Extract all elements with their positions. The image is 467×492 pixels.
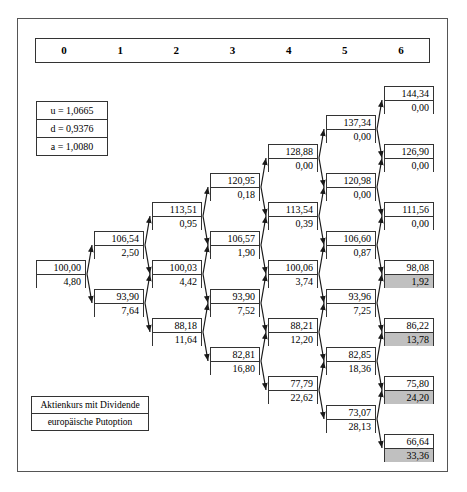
tree-node: 113,510,95 xyxy=(152,202,202,230)
period-header-bar: 0123456 xyxy=(35,38,430,63)
node-stock-price: 111,56 xyxy=(385,203,433,217)
period-label-2: 2 xyxy=(148,39,204,62)
tree-node: 120,950,18 xyxy=(210,173,260,201)
node-option-value: 0,00 xyxy=(269,159,317,172)
tree-node: 126,900,00 xyxy=(384,144,434,172)
parameter-row: u = 1,0665 xyxy=(37,102,107,120)
node-option-value: 0,00 xyxy=(327,188,375,201)
node-stock-price: 88,21 xyxy=(269,319,317,333)
node-option-value: 0,00 xyxy=(385,217,433,230)
node-stock-price: 137,34 xyxy=(327,116,375,130)
tree-node: 100,063,74 xyxy=(268,260,318,288)
node-option-value: 0,18 xyxy=(211,188,259,201)
node-option-value: 11,64 xyxy=(153,333,201,346)
node-stock-price: 93,96 xyxy=(327,290,375,304)
node-stock-price: 82,85 xyxy=(327,348,375,362)
node-option-value: 1,90 xyxy=(211,246,259,259)
tree-node: 137,340,00 xyxy=(326,115,376,143)
node-stock-price: 120,95 xyxy=(211,174,259,188)
parameter-row: a = 1,0080 xyxy=(37,138,107,155)
tree-node: 113,540,39 xyxy=(268,202,318,230)
node-stock-price: 126,90 xyxy=(385,145,433,159)
node-stock-price: 100,03 xyxy=(153,261,201,275)
tree-node: 128,880,00 xyxy=(268,144,318,172)
node-option-value: 2,50 xyxy=(95,246,143,259)
tree-node: 66,6433,36 xyxy=(384,434,434,462)
tree-node: 77,7922,62 xyxy=(268,376,318,404)
tree-node: 88,2112,20 xyxy=(268,318,318,346)
period-label-1: 1 xyxy=(92,39,148,62)
node-option-value: 33,36 xyxy=(385,449,433,462)
node-stock-price: 113,51 xyxy=(153,203,201,217)
node-option-value: 0,00 xyxy=(385,159,433,172)
tree-node: 93,907,64 xyxy=(94,289,144,317)
node-option-value: 0,00 xyxy=(385,101,433,114)
tree-node: 88,1811,64 xyxy=(152,318,202,346)
tree-node: 106,600,87 xyxy=(326,231,376,259)
node-option-value: 0,00 xyxy=(327,130,375,143)
node-option-value: 3,74 xyxy=(269,275,317,288)
tree-node: 120,980,00 xyxy=(326,173,376,201)
node-stock-price: 113,54 xyxy=(269,203,317,217)
tree-node: 86,2213,78 xyxy=(384,318,434,346)
parameters-box: u = 1,0665d = 0,9376a = 1,0080 xyxy=(36,101,108,156)
node-option-value: 28,13 xyxy=(327,420,375,433)
node-option-value: 22,62 xyxy=(269,391,317,404)
node-stock-price: 98,08 xyxy=(385,261,433,275)
node-stock-price: 82,81 xyxy=(211,348,259,362)
node-option-value: 7,52 xyxy=(211,304,259,317)
node-option-value: 18,36 xyxy=(327,362,375,375)
node-stock-price: 73,07 xyxy=(327,406,375,420)
node-stock-price: 100,00 xyxy=(37,261,85,275)
node-option-value: 7,25 xyxy=(327,304,375,317)
node-stock-price: 75,80 xyxy=(385,377,433,391)
period-label-4: 4 xyxy=(261,39,317,62)
node-stock-price: 77,79 xyxy=(269,377,317,391)
node-stock-price: 106,57 xyxy=(211,232,259,246)
tree-node: 73,0728,13 xyxy=(326,405,376,433)
period-label-5: 5 xyxy=(317,39,373,62)
node-option-value: 12,20 xyxy=(269,333,317,346)
parameter-row: d = 0,9376 xyxy=(37,120,107,138)
node-stock-price: 88,18 xyxy=(153,319,201,333)
tree-node: 106,571,90 xyxy=(210,231,260,259)
tree-node: 93,967,25 xyxy=(326,289,376,317)
tree-node: 82,8518,36 xyxy=(326,347,376,375)
tree-node: 111,560,00 xyxy=(384,202,434,230)
period-label-6: 6 xyxy=(373,39,429,62)
tree-node: 93,907,52 xyxy=(210,289,260,317)
node-stock-price: 86,22 xyxy=(385,319,433,333)
node-stock-price: 120,98 xyxy=(327,174,375,188)
tree-node: 75,8024,20 xyxy=(384,376,434,404)
node-stock-price: 128,88 xyxy=(269,145,317,159)
legend-line2: europäische Putoption xyxy=(32,414,148,430)
tree-node: 100,034,42 xyxy=(152,260,202,288)
legend-line1: Aktienkurs mit Dividende xyxy=(32,397,148,414)
tree-node: 98,081,92 xyxy=(384,260,434,288)
node-option-value: 0,95 xyxy=(153,217,201,230)
node-stock-price: 66,64 xyxy=(385,435,433,449)
tree-node: 100,004,80 xyxy=(36,260,86,288)
node-option-value: 7,64 xyxy=(95,304,143,317)
node-stock-price: 93,90 xyxy=(95,290,143,304)
tree-node: 144,340,00 xyxy=(384,86,434,114)
period-label-3: 3 xyxy=(204,39,260,62)
tree-node: 82,8116,80 xyxy=(210,347,260,375)
node-option-value: 13,78 xyxy=(385,333,433,346)
node-stock-price: 93,90 xyxy=(211,290,259,304)
node-option-value: 0,39 xyxy=(269,217,317,230)
period-label-0: 0 xyxy=(36,39,92,62)
node-stock-price: 106,54 xyxy=(95,232,143,246)
binomial-tree-figure: 0123456 u = 1,0665d = 0,9376a = 1,0080 1… xyxy=(0,0,467,492)
node-stock-price: 100,06 xyxy=(269,261,317,275)
node-option-value: 0,87 xyxy=(327,246,375,259)
node-stock-price: 144,34 xyxy=(385,87,433,101)
node-option-value: 16,80 xyxy=(211,362,259,375)
node-stock-price: 106,60 xyxy=(327,232,375,246)
node-option-value: 4,42 xyxy=(153,275,201,288)
node-option-value: 24,20 xyxy=(385,391,433,404)
legend-box: Aktienkurs mit Dividendeeuropäische Puto… xyxy=(31,396,149,431)
node-option-value: 1,92 xyxy=(385,275,433,288)
tree-node: 106,542,50 xyxy=(94,231,144,259)
node-option-value: 4,80 xyxy=(37,275,85,288)
